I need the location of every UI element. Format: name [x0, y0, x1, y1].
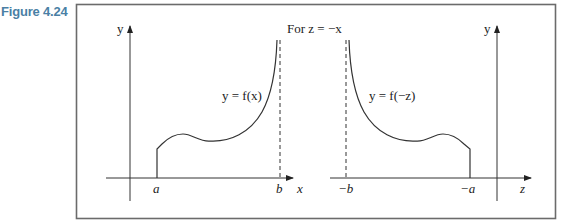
tick-neg-a: −a	[460, 181, 476, 196]
figure-frame	[77, 5, 556, 219]
left-graph: y x y = f(x) a b	[106, 21, 303, 201]
right-graph: y z y = f(−z) −b −a	[330, 21, 531, 201]
right-y-label: y	[484, 21, 491, 36]
transform-caption: For z = −x	[287, 21, 342, 36]
curve-label-f-of-x: y = f(x)	[222, 88, 262, 103]
tick-b: b	[276, 181, 283, 196]
right-z-label: z	[519, 181, 525, 196]
curve-f-of-neg-z	[349, 40, 470, 178]
curve-f-of-x	[157, 40, 277, 178]
left-y-label: y	[117, 21, 124, 36]
curve-label-f-of-neg-z: y = f(−z)	[369, 88, 415, 103]
figure-diagram: y x y = f(x) a b For z = −x y z y = f(−z…	[0, 0, 577, 224]
tick-a: a	[153, 181, 160, 196]
left-x-label: x	[296, 181, 303, 196]
tick-neg-b: −b	[338, 181, 354, 196]
